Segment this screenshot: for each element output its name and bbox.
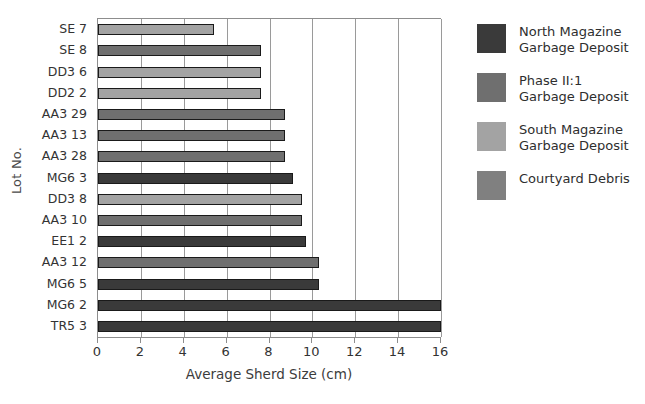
- legend-label-line: Phase II:1: [519, 73, 629, 89]
- y-axis-title-text: Lot No.: [10, 146, 25, 193]
- legend: North MagazineGarbage DepositPhase II:1G…: [477, 24, 642, 217]
- bar-row: [98, 19, 441, 40]
- bar: [98, 300, 441, 311]
- x-tick-mark: [226, 337, 227, 343]
- x-axis-tick-label: 0: [93, 344, 101, 359]
- bar-row: [98, 40, 441, 61]
- bar-row: [98, 125, 441, 146]
- bar-row: [98, 61, 441, 82]
- bar: [98, 109, 285, 120]
- bar-row: [98, 295, 441, 316]
- y-axis-tick-label: EE1 2: [26, 230, 92, 251]
- legend-label: Courtyard Debris: [519, 171, 630, 187]
- y-axis-tick-label: MG6 3: [26, 166, 92, 187]
- bar: [98, 88, 261, 99]
- x-tick-mark: [97, 337, 98, 343]
- bar-row: [98, 189, 441, 210]
- legend-entry: South MagazineGarbage Deposit: [477, 122, 642, 154]
- bar-row: [98, 273, 441, 294]
- legend-label: Phase II:1Garbage Deposit: [519, 73, 629, 105]
- x-tick-mark: [269, 337, 270, 343]
- y-axis-tick-label: DD3 6: [26, 60, 92, 81]
- y-axis-tick-label: DD3 8: [26, 188, 92, 209]
- legend-label-line: Garbage Deposit: [519, 89, 629, 105]
- bar: [98, 173, 293, 184]
- x-axis-tick-label: 10: [303, 344, 320, 359]
- bar: [98, 215, 302, 226]
- x-axis-tick-labels: 0246810121416: [97, 344, 441, 362]
- bar-row: [98, 210, 441, 231]
- y-axis-tick-label: SE 7: [26, 18, 92, 39]
- bar: [98, 24, 214, 35]
- legend-entry: Courtyard Debris: [477, 171, 642, 200]
- x-axis-tick-marks: [97, 337, 441, 344]
- legend-swatch: [477, 73, 506, 102]
- legend-label-line: South Magazine: [519, 122, 629, 138]
- bar: [98, 67, 261, 78]
- bar-row: [98, 104, 441, 125]
- bar: [98, 279, 319, 290]
- y-axis-tick-label: SE 8: [26, 39, 92, 60]
- y-axis-tick-label: AA3 28: [26, 145, 92, 166]
- x-axis-tick-label: 4: [179, 344, 187, 359]
- legend-label: North MagazineGarbage Deposit: [519, 24, 629, 56]
- y-axis-tick-label: TR5 3: [26, 315, 92, 336]
- x-tick-mark: [354, 337, 355, 343]
- plot-area: [97, 18, 441, 338]
- legend-label-line: Courtyard Debris: [519, 171, 630, 187]
- x-axis-tick-label: 16: [432, 344, 449, 359]
- bar-row: [98, 167, 441, 188]
- x-tick-mark: [311, 337, 312, 343]
- bar-row: [98, 252, 441, 273]
- x-axis-title: Average Sherd Size (cm): [97, 366, 441, 382]
- x-tick-mark: [140, 337, 141, 343]
- bar: [98, 151, 285, 162]
- y-axis-tick-label: AA3 29: [26, 103, 92, 124]
- y-axis-tick-labels: SE 7SE 8DD3 6DD2 2AA3 29AA3 13AA3 28MG6 …: [26, 18, 92, 336]
- gridline: [441, 19, 442, 337]
- bar: [98, 257, 319, 268]
- legend-swatch: [477, 122, 506, 151]
- bar: [98, 321, 441, 332]
- legend-swatch: [477, 171, 506, 200]
- bar-chart-figure: Lot No. SE 7SE 8DD3 6DD2 2AA3 29AA3 13AA…: [0, 0, 645, 404]
- legend-label-line: North Magazine: [519, 24, 629, 40]
- legend-label: South MagazineGarbage Deposit: [519, 122, 629, 154]
- x-axis-tick-label: 8: [264, 344, 272, 359]
- legend-entry: North MagazineGarbage Deposit: [477, 24, 642, 56]
- x-axis-tick-label: 6: [221, 344, 229, 359]
- x-axis-tick-label: 12: [346, 344, 363, 359]
- legend-entry: Phase II:1Garbage Deposit: [477, 73, 642, 105]
- bar: [98, 130, 285, 141]
- x-axis-tick-label: 2: [136, 344, 144, 359]
- bar: [98, 236, 306, 247]
- y-axis-tick-label: AA3 10: [26, 209, 92, 230]
- y-axis-tick-label: DD2 2: [26, 82, 92, 103]
- bar: [98, 194, 302, 205]
- x-tick-mark: [440, 337, 441, 343]
- legend-swatch: [477, 24, 506, 53]
- y-axis-tick-label: AA3 13: [26, 124, 92, 145]
- legend-label-line: Garbage Deposit: [519, 40, 629, 56]
- bar-row: [98, 231, 441, 252]
- bar-row: [98, 316, 441, 337]
- legend-label-line: Garbage Deposit: [519, 138, 629, 154]
- bar-series: [98, 19, 441, 337]
- y-axis-tick-label: AA3 12: [26, 251, 92, 272]
- bar-row: [98, 146, 441, 167]
- x-axis-tick-label: 14: [389, 344, 406, 359]
- x-tick-mark: [397, 337, 398, 343]
- x-tick-mark: [183, 337, 184, 343]
- bar-row: [98, 83, 441, 104]
- y-axis-tick-label: MG6 2: [26, 294, 92, 315]
- y-axis-tick-label: MG6 5: [26, 272, 92, 293]
- bar: [98, 45, 261, 56]
